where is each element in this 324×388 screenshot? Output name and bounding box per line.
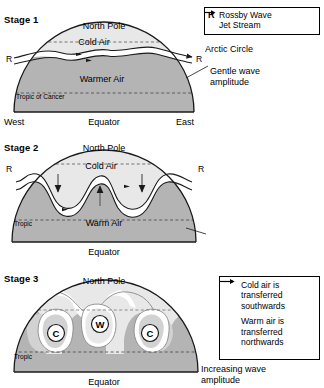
legend-row-jet-stream: Jet Stream	[208, 20, 316, 30]
stage-3-north-pole-label: North Pole	[83, 276, 126, 286]
stage-1-warm-air-label: Warmer Air	[80, 74, 125, 84]
legend-row-rossby: R Rossby Wave	[208, 10, 316, 20]
stage-2-tropic-label: Tropic	[14, 220, 33, 228]
legend-jet-stream-label: Jet Stream	[219, 20, 316, 30]
stage-1-legend: R Rossby Wave Jet Stream	[204, 7, 320, 35]
stage-2-cold-air-label: Cold Air	[85, 161, 117, 171]
stage-1-wave-amplitude-annotation: Gentle wave amplitude	[210, 66, 280, 87]
stage-3-panel: Stage 3	[0, 258, 324, 388]
stage-1-east-label: East	[176, 117, 195, 127]
stage-3-tropic-label: Tropic	[14, 353, 33, 361]
stage-3-cold-cell-left-label: C	[53, 328, 60, 339]
stage-2-equator-label: Equator	[88, 247, 120, 257]
stage-1-cold-air-label: Cold Air	[78, 37, 110, 47]
stage-1-equator-label: Equator	[88, 117, 120, 127]
stage-2-rossby-right-label: R	[198, 164, 204, 174]
stage-1-rossby-right-label: R	[196, 54, 202, 64]
stage-3-cold-cell-right-label: C	[147, 328, 154, 339]
stage-3-warm-cell-label: W	[96, 319, 105, 330]
stage-1-tropic-label: Tropic of Cancer	[16, 93, 65, 101]
stage-1-rossby-left-label: R	[6, 54, 12, 64]
stage-2-rossby-left-label: R	[6, 164, 12, 174]
legend-rossby-label: Rossby Wave	[219, 10, 316, 20]
stage-2-panel: Stage 2	[0, 130, 324, 258]
stage-1-west-label: West	[4, 117, 25, 127]
stage-1-north-pole-label: North Pole	[83, 21, 126, 31]
stage-2-diagram: North Pole Cold Air Warm Air Tropic R R …	[0, 130, 324, 258]
stage-2-north-pole-label: North Pole	[83, 143, 126, 153]
stage-1-arctic-circle-annotation: Arctic Circle	[205, 44, 253, 55]
stage-3-diagram: C W C North Pole Tropic Equator	[0, 258, 324, 388]
stage-1-panel: Stage 1	[0, 0, 324, 130]
stage-2-warm-air-label: Warm Air	[86, 218, 123, 228]
stage-3-equator-label: Equator	[88, 377, 120, 387]
